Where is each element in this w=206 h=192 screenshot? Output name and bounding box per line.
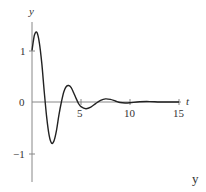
data-line [32,32,179,144]
x-axis-label: t [186,96,189,107]
x-tick-label-15: 15 [173,108,184,119]
x-tick-label-10: 10 [124,108,135,119]
x-tick-label-5: 5 [77,108,83,119]
corner-label: y [192,172,199,185]
y-tick-label-neg1: −1 [13,149,25,160]
y-tick-label-1: 1 [20,46,26,57]
chart-canvas [0,0,206,192]
y-axis-label: y [29,6,34,17]
y-tick-label-0: 0 [19,97,25,108]
